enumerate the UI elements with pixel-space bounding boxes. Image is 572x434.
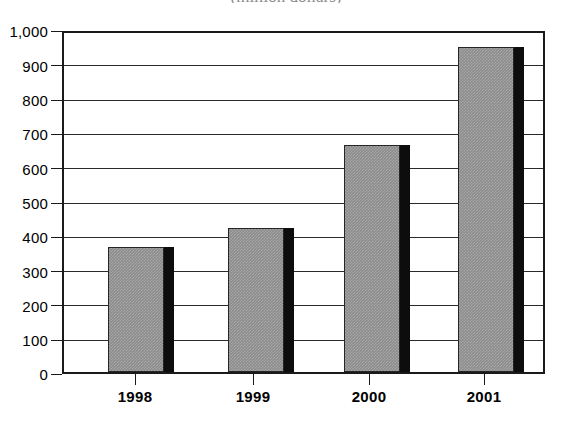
y-tick-label: 800: [22, 93, 48, 108]
bar-chart-figure: (million dollars) 1,000 900 800 700 600 …: [0, 0, 572, 434]
bar-side-2001: [513, 47, 524, 372]
y-tick-mark: [51, 271, 62, 272]
x-tick-label-2001: 2001: [454, 388, 514, 405]
bar-face-1998: [108, 247, 164, 372]
bar-group-2000[interactable]: [344, 145, 410, 372]
bar-face-1999: [228, 228, 284, 372]
y-tick-mark: [51, 203, 62, 204]
bar-group-2001[interactable]: [458, 47, 524, 372]
y-tick-label: 900: [22, 59, 48, 74]
y-tick-label: 200: [22, 299, 48, 314]
y-tick-label: 500: [22, 196, 48, 211]
bars-layer: [64, 33, 543, 372]
y-tick-label: 400: [22, 230, 48, 245]
y-tick-label: 100: [22, 333, 48, 348]
bar-group-1998[interactable]: [108, 247, 174, 372]
x-tick-mark: [135, 374, 136, 385]
y-tick-label: 1,000: [9, 24, 48, 39]
y-tick-mark: [51, 100, 62, 101]
bar-group-1999[interactable]: [228, 228, 294, 372]
x-tick-label-1999: 1999: [223, 388, 283, 405]
x-tick-mark: [484, 374, 485, 385]
y-tick-label: 700: [22, 127, 48, 142]
bar-side-1998: [163, 247, 174, 372]
y-tick-mark: [51, 65, 62, 66]
y-tick-mark: [51, 134, 62, 135]
bar-face-2000: [344, 145, 400, 372]
x-tick-mark: [253, 374, 254, 385]
x-tick-label-1998: 1998: [105, 388, 165, 405]
x-tick-mark: [369, 374, 370, 385]
y-tick-mark: [51, 31, 62, 32]
y-axis: 1,000 900 800 700 600 500 400 300 200 10…: [0, 0, 62, 434]
bar-side-2000: [399, 145, 410, 372]
y-tick-label: 300: [22, 265, 48, 280]
bar-side-1999: [283, 228, 294, 372]
y-tick-mark: [51, 340, 62, 341]
bar-face-2001: [458, 47, 514, 372]
x-tick-label-2000: 2000: [339, 388, 399, 405]
chart-title: (million dollars): [0, 0, 572, 3]
y-tick-mark: [51, 168, 62, 169]
y-tick-mark: [51, 237, 62, 238]
plot-area: [62, 31, 545, 374]
x-axis: 1998 1999 2000 2001: [0, 374, 572, 434]
y-tick-mark: [51, 305, 62, 306]
y-tick-label: 600: [22, 162, 48, 177]
